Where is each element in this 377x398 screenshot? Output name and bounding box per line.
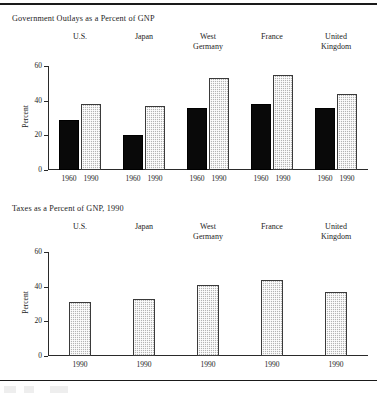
- y-axis-title: Percent: [21, 283, 30, 323]
- bar: [251, 104, 271, 170]
- x-axis-tick-label: 1990: [332, 174, 362, 183]
- plot-area: Percent 0204060: [48, 66, 368, 170]
- y-axis-tick-label: 20: [35, 318, 43, 326]
- y-axis-tick-label: 0: [38, 166, 42, 174]
- bar: [145, 106, 165, 170]
- bar: [325, 292, 347, 356]
- y-axis-tick-label: 60: [35, 248, 43, 256]
- y-axis-line: [48, 252, 49, 356]
- x-axis-tick-label: 1990: [204, 174, 234, 183]
- y-axis-tick-label: 0: [38, 352, 42, 360]
- country-header-label: U.S.: [48, 32, 112, 42]
- x-axis-tick-label: 1990: [140, 174, 170, 183]
- y-axis-tick: [44, 101, 48, 102]
- footer-artifact: [4, 386, 204, 393]
- y-axis-tick: [44, 66, 48, 67]
- country-headers: U.S.JapanWest GermanyFranceUnited Kingdo…: [48, 32, 368, 58]
- figure-page: Government Outlays as a Percent of GNP U…: [0, 0, 377, 398]
- country-header-label: West Germany: [176, 32, 240, 51]
- x-axis-tick-label: 1990: [320, 360, 352, 369]
- country-headers: U.S.JapanWest GermanyFranceUnited Kingdo…: [48, 222, 368, 248]
- bar: [187, 108, 207, 170]
- country-header-label: West Germany: [176, 222, 240, 241]
- bar: [81, 104, 101, 170]
- chart-title: Taxes as a Percent of GNP, 1990: [12, 204, 124, 213]
- x-axis-tick-label: 1990: [268, 174, 298, 183]
- bar: [69, 302, 91, 356]
- y-axis-tick: [44, 321, 48, 322]
- chart-government-outlays: Government Outlays as a Percent of GNP U…: [0, 14, 377, 204]
- bar: [315, 108, 335, 170]
- bar: [273, 75, 293, 170]
- y-axis-tick-label: 40: [35, 97, 43, 105]
- y-axis-tick: [44, 356, 48, 357]
- country-header-label: France: [240, 222, 304, 232]
- country-header-label: United Kingdom: [304, 222, 368, 241]
- country-header-label: U.S.: [48, 222, 112, 232]
- y-axis-title: Percent: [21, 97, 30, 137]
- x-axis-tick-label: 1990: [64, 360, 96, 369]
- bar: [133, 299, 155, 356]
- x-axis-tick-label: 1990: [76, 174, 106, 183]
- bar: [261, 280, 283, 356]
- bar: [337, 94, 357, 170]
- y-axis-tick: [44, 287, 48, 288]
- y-axis-tick-label: 40: [35, 283, 43, 291]
- y-axis-tick: [44, 252, 48, 253]
- bar: [59, 120, 79, 170]
- bar: [197, 285, 219, 356]
- y-axis-tick: [44, 135, 48, 136]
- x-axis-labels: 1960199019601990196019901960199019601990: [48, 174, 368, 188]
- x-axis-tick-label: 1990: [192, 360, 224, 369]
- country-header-label: Japan: [112, 32, 176, 42]
- x-axis-tick-label: 1990: [256, 360, 288, 369]
- bar: [209, 78, 229, 170]
- country-header-label: France: [240, 32, 304, 42]
- x-axis-labels: 19901990199019901990: [48, 360, 368, 374]
- plot-area: Percent 0204060: [48, 252, 368, 356]
- y-axis-tick-label: 20: [35, 132, 43, 140]
- y-axis-tick-label: 60: [35, 62, 43, 70]
- country-header-label: Japan: [112, 222, 176, 232]
- top-rule: [0, 3, 377, 5]
- x-axis-tick-label: 1990: [128, 360, 160, 369]
- chart-title: Government Outlays as a Percent of GNP: [12, 14, 155, 23]
- y-axis-tick: [44, 170, 48, 171]
- bottom-rule: [0, 380, 377, 381]
- chart-taxes: Taxes as a Percent of GNP, 1990 U.S.Japa…: [0, 204, 377, 380]
- bar: [123, 135, 143, 170]
- country-header-label: United Kingdom: [304, 32, 368, 51]
- y-axis-line: [48, 66, 49, 170]
